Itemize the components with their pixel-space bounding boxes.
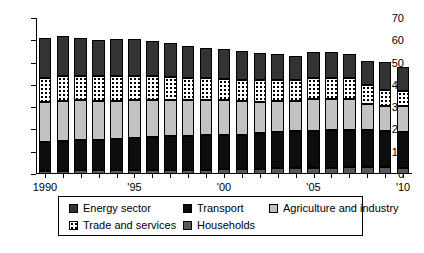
bar-segment <box>379 167 392 174</box>
bar-segment <box>343 167 356 174</box>
x-axis-tick <box>134 174 135 178</box>
legend-item-transport[interactable]: Transport <box>183 200 244 217</box>
x-axis-tick <box>81 174 82 178</box>
bar-segment <box>361 167 374 174</box>
x-axis-tick-label: '95 <box>127 182 141 193</box>
bar-segment <box>200 100 213 136</box>
bar-segment <box>236 101 249 135</box>
bar-segment <box>74 170 87 174</box>
bar-segment <box>110 39 123 76</box>
bar-segment <box>307 131 320 168</box>
bar-segment <box>39 38 52 77</box>
bar-segment <box>397 67 410 91</box>
bar-segment <box>92 40 105 77</box>
x-axis-tick <box>260 174 261 178</box>
bar-segment <box>128 138 141 170</box>
legend-label: Energy sector <box>83 203 151 214</box>
bar-segment <box>307 99 320 130</box>
bar-segment <box>343 78 356 99</box>
bar-segment <box>39 171 52 174</box>
legend-item-energy[interactable]: Energy sector <box>69 200 151 217</box>
bar-segment <box>182 46 195 78</box>
bar-segment <box>271 132 284 168</box>
bar-segment <box>39 102 52 142</box>
bar-segment <box>57 101 70 141</box>
legend-label: Transport <box>197 203 244 214</box>
x-axis-tick <box>367 174 368 178</box>
bar-segment <box>218 169 231 174</box>
bar-segment <box>379 106 392 132</box>
bar-segment <box>128 39 141 76</box>
bar-2000 <box>218 49 231 174</box>
bar-segment <box>74 140 87 170</box>
bar-segment <box>325 130 338 168</box>
x-axis-tick <box>296 174 297 178</box>
x-axis-tick <box>117 174 118 178</box>
bar-segment <box>361 130 374 167</box>
swatch-transport-icon <box>183 204 192 213</box>
bar-segment <box>271 168 284 174</box>
bar-segment <box>397 132 410 168</box>
stacked-bar-chart: 010203040506070 1990'95'00'05'10 Energy … <box>0 0 424 253</box>
bar-segment <box>379 62 392 89</box>
bar-2004 <box>289 56 302 174</box>
bar-segment <box>164 43 177 76</box>
x-axis-tick <box>242 174 243 178</box>
bar-segment <box>307 52 320 78</box>
bar-segment <box>361 104 374 129</box>
bar-1994 <box>110 39 123 174</box>
x-axis-tick-label: '05 <box>306 182 320 193</box>
legend-item-agriculture[interactable]: Agriculture and industry <box>269 200 399 217</box>
bar-segment <box>110 101 123 140</box>
bar-segment <box>397 168 410 174</box>
x-axis-tick <box>349 174 350 178</box>
bar-segment <box>92 76 105 100</box>
x-axis-tick-label: '10 <box>396 182 410 193</box>
bar-segment <box>57 76 70 101</box>
bar-segment <box>361 85 374 105</box>
bar-segment <box>361 61 374 84</box>
bar-segment <box>289 80 302 101</box>
bar-segment <box>128 100 141 138</box>
chart-legend: Energy sectorTransportAgriculture and in… <box>58 196 363 236</box>
bar-1998 <box>182 46 195 174</box>
bar-1999 <box>200 48 213 174</box>
bar-segment <box>200 48 213 78</box>
x-axis-tick <box>170 174 171 178</box>
bar-2008 <box>361 54 374 174</box>
bar-segment <box>146 100 159 137</box>
bar-segment <box>236 51 249 80</box>
legend-row-top: Energy sectorTransportAgriculture and in… <box>59 200 362 217</box>
bar-segment <box>146 41 159 76</box>
bar-segment <box>397 91 410 106</box>
legend-row-bottom: Trade and servicesHouseholds <box>59 217 362 234</box>
bar-segment <box>164 136 177 169</box>
bar-segment <box>325 52 338 78</box>
legend-item-trade[interactable]: Trade and services <box>69 217 176 234</box>
bar-2003 <box>271 54 284 174</box>
swatch-energy-icon <box>69 204 78 213</box>
x-axis-tick <box>403 174 404 178</box>
bar-segment <box>218 100 231 135</box>
bar-segment <box>289 131 302 168</box>
legend-label: Households <box>197 220 255 231</box>
bar-segment <box>164 170 177 174</box>
legend-item-households[interactable]: Households <box>183 217 255 234</box>
swatch-agriculture-icon <box>269 204 278 213</box>
x-axis-tick <box>278 174 279 178</box>
x-axis-tick-label: '00 <box>217 182 231 193</box>
bar-segment <box>254 102 267 134</box>
bar-segment <box>110 76 123 100</box>
bar-segment <box>57 171 70 174</box>
bar-segment <box>325 168 338 174</box>
bar-segment <box>182 100 195 136</box>
bar-segment <box>236 169 249 174</box>
bar-segment <box>379 90 392 106</box>
bar-1992 <box>74 38 87 174</box>
bar-segment <box>271 80 284 101</box>
legend-label: Trade and services <box>83 220 176 231</box>
bar-segment <box>325 99 338 130</box>
bar-segment <box>92 170 105 174</box>
x-axis-tick-label: 1990 <box>33 182 57 193</box>
bar-segment <box>110 139 123 170</box>
